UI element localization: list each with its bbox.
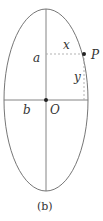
label-o: O (50, 103, 60, 117)
label-p: P (90, 48, 100, 62)
point-p (82, 52, 86, 56)
ellipse-diagram: a x P y b O (b) (0, 0, 103, 221)
label-x: x (63, 38, 70, 52)
figure-caption: (b) (37, 200, 53, 213)
origin-point (44, 98, 48, 102)
label-y: y (73, 70, 81, 84)
label-a: a (33, 51, 40, 65)
label-b: b (23, 103, 31, 117)
